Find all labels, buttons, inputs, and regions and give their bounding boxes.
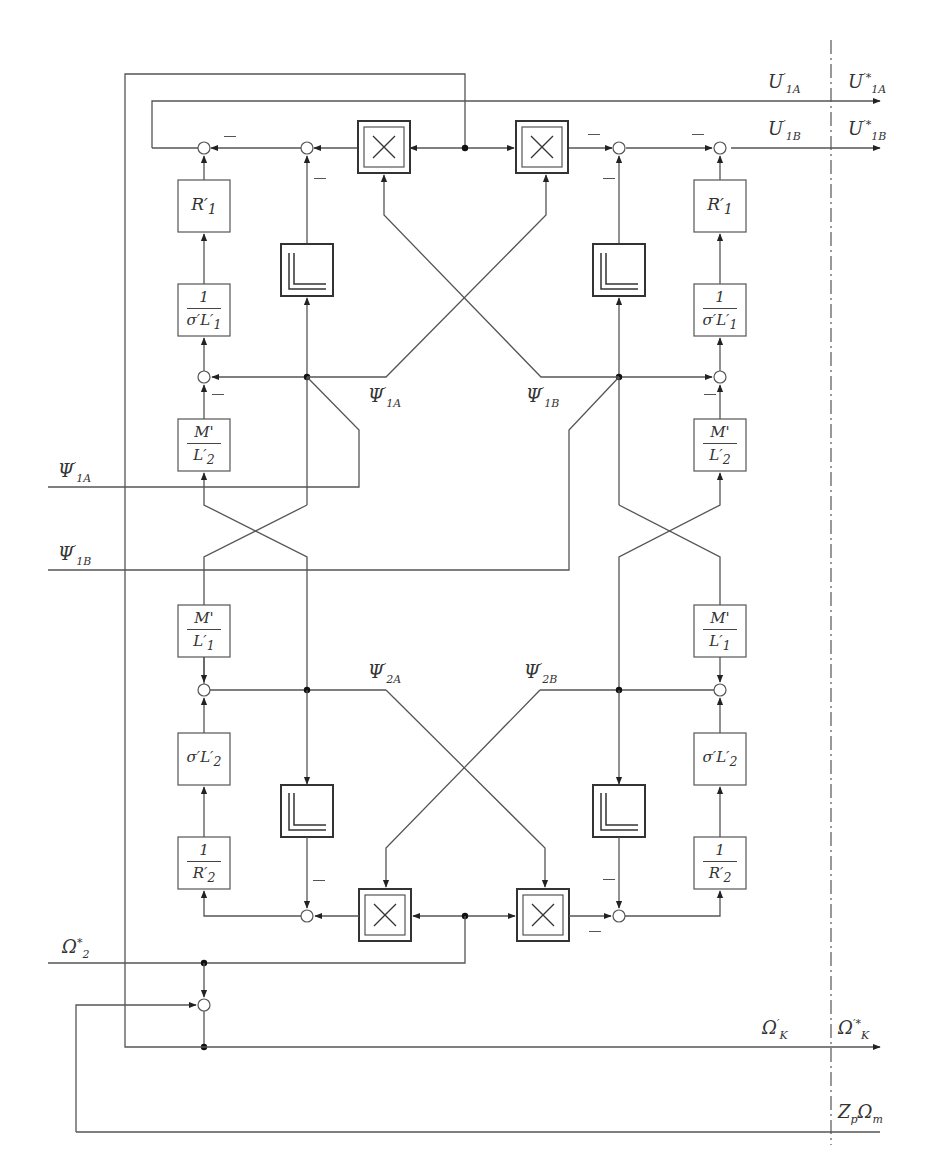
minus-sign (313, 880, 325, 881)
psi2a-label: Ψ′2A (368, 662, 401, 685)
omega-k-output-wire (125, 1040, 880, 1047)
psi1a-cross-wire (307, 175, 546, 377)
psi1a-input-label: Ψ′1A (58, 461, 91, 484)
psi1b-cross-wire (384, 175, 619, 377)
omega-k-star-label: Ω′*K (838, 1018, 869, 1041)
u1b-star-label: U′*1B (848, 119, 886, 142)
psi1a-internal-label: Ψ′1A (368, 386, 401, 409)
wire (204, 505, 307, 605)
minus-sign (692, 134, 704, 135)
m-over-l1-right-label: M' L′1 (694, 605, 746, 657)
m-over-l2-right-label: M' L′2 (694, 419, 746, 471)
minus-sign (314, 178, 326, 179)
wire (619, 505, 720, 605)
summing-junction (198, 371, 210, 383)
wire (204, 891, 301, 916)
summing-junction (613, 910, 625, 922)
summing-junction (301, 910, 313, 922)
inv-r2-right-label: 1 R′2 (694, 837, 746, 889)
psi1b-internal-label: Ψ′1B (526, 386, 559, 409)
outer-feedback-wire (125, 74, 465, 1040)
summing-junction (714, 684, 726, 696)
inv-r2-left-label: 1 R′2 (178, 837, 230, 889)
summing-junction (613, 142, 625, 154)
minus-sign (224, 136, 236, 137)
minus-sign (603, 879, 615, 880)
psi2b-cross-wire (386, 690, 540, 887)
omega-k-label: Ω′K (762, 1018, 788, 1041)
minus-sign (212, 394, 224, 395)
m-over-l2-left-label: M' L′2 (178, 419, 230, 471)
summing-junction (198, 142, 210, 154)
summing-junction (714, 142, 726, 154)
junction-node (462, 145, 468, 151)
r1-right-label: R′1 (694, 196, 746, 217)
u1a-star-label: U′*1A (848, 72, 886, 95)
psi2b-label: Ψ′2B (524, 662, 557, 685)
zp-omega-feedback-wire (76, 1005, 196, 1132)
minus-sign (704, 394, 716, 395)
r1-left-label: R′1 (178, 196, 230, 217)
sigma-l2-left-label: σ′L′2 (178, 750, 230, 769)
summing-junction (198, 999, 210, 1011)
sigma-l2-right-label: σ′L′2 (694, 750, 746, 769)
u1a-label: U′1A (768, 72, 801, 95)
minus-sign (603, 178, 615, 179)
summing-junction (301, 142, 313, 154)
inv-sigma-l1-left-label: 1 σ′L′1 (178, 284, 230, 336)
minus-sign (588, 134, 600, 135)
zp-omega-m-label: ZpΩm (838, 1103, 883, 1125)
psi1b-input-label: Ψ′1B (58, 544, 91, 567)
summing-junction (714, 371, 726, 383)
inv-sigma-l1-right-label: 1 σ′L′1 (694, 284, 746, 336)
wire (625, 891, 720, 916)
psi2a-cross-wire (386, 690, 545, 887)
omega2-star-label: Ω*2 (62, 937, 89, 960)
u1b-label: U′1B (768, 119, 801, 142)
m-over-l1-left-label: M' L′1 (178, 605, 230, 657)
block-diagram-canvas (0, 0, 951, 1170)
summing-junction (198, 684, 210, 696)
minus-sign (589, 931, 601, 932)
